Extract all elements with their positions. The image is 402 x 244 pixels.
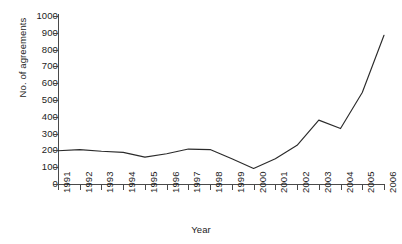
y-tick-mark (53, 117, 58, 118)
y-tick-mark (53, 50, 58, 51)
x-tick-mark (80, 185, 81, 190)
x-tick-mark (341, 185, 342, 190)
x-tick-label: 1993 (105, 171, 115, 193)
x-tick-mark (297, 185, 298, 190)
x-tick-label: 1997 (192, 171, 202, 193)
y-tick-mark (53, 134, 58, 135)
x-tick-label: 2002 (301, 171, 311, 193)
x-tick-mark (319, 185, 320, 190)
x-tick-mark (123, 185, 124, 190)
x-tick-label: 2003 (323, 171, 333, 193)
x-tick-mark (254, 185, 255, 190)
x-axis-label: Year (0, 224, 402, 235)
x-tick-label: 1998 (214, 171, 224, 193)
y-tick-mark (53, 66, 58, 67)
x-tick-label: 2001 (279, 171, 289, 193)
x-tick-label: 1992 (84, 171, 94, 193)
x-tick-label: 1991 (62, 171, 72, 193)
x-tick-mark (362, 185, 363, 190)
y-tick-mark (53, 16, 58, 17)
x-tick-mark (101, 185, 102, 190)
x-tick-mark (275, 185, 276, 190)
y-tick-mark (53, 150, 58, 151)
x-tick-label: 2005 (366, 171, 376, 193)
x-tick-label: 1994 (127, 171, 137, 193)
y-tick-mark (53, 100, 58, 101)
line-chart-figure: No. of agreements 0100200300400500600700… (0, 0, 402, 244)
x-tick-mark (145, 185, 146, 190)
x-tick-label: 2006 (388, 171, 398, 193)
x-tick-label: 1996 (171, 171, 181, 193)
x-tick-label: 1995 (149, 171, 159, 193)
x-tick-label: 2004 (345, 171, 355, 193)
x-tick-label: 2000 (258, 171, 268, 193)
x-axis-tick-labels: 1991199219931994199519961997199819992000… (0, 0, 402, 244)
x-tick-mark (58, 185, 59, 190)
x-tick-mark (167, 185, 168, 190)
x-tick-mark (384, 185, 385, 190)
x-tick-mark (210, 185, 211, 190)
x-tick-label: 1999 (236, 171, 246, 193)
y-tick-mark (53, 167, 58, 168)
y-tick-mark (53, 83, 58, 84)
x-tick-mark (232, 185, 233, 190)
y-tick-mark (53, 33, 58, 34)
x-tick-mark (188, 185, 189, 190)
